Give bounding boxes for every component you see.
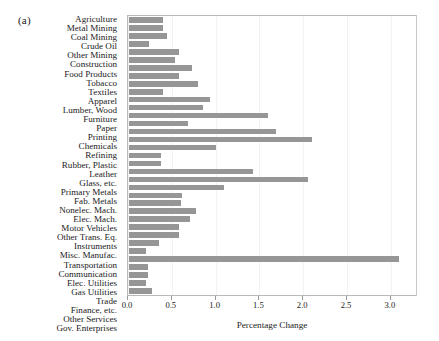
bar <box>129 113 268 119</box>
bar <box>129 81 198 87</box>
x-axis-tick-label: 0.5 <box>165 300 176 310</box>
bar-row <box>128 199 416 207</box>
bar-row <box>128 191 416 199</box>
bar <box>129 121 188 127</box>
bar-row <box>128 32 416 40</box>
x-axis-tick-label: 0.0 <box>122 300 133 310</box>
bar <box>129 65 192 71</box>
bar <box>129 17 163 23</box>
bar-row <box>128 144 416 152</box>
bar-row <box>128 64 416 72</box>
bar-row <box>128 80 416 88</box>
bar-row <box>128 207 416 215</box>
bar <box>129 129 276 135</box>
bar <box>129 256 399 262</box>
x-axis-tick-label: 2.5 <box>341 300 352 310</box>
bar-row <box>128 128 416 136</box>
bar-row <box>128 104 416 112</box>
bar <box>129 169 253 175</box>
bar-row <box>128 287 416 295</box>
category-label: Gov. Enterprises <box>0 324 121 333</box>
bar-row <box>128 255 416 263</box>
bar-row <box>128 159 416 167</box>
bar <box>129 41 149 47</box>
bar <box>129 73 179 79</box>
bar-row <box>128 175 416 183</box>
bar <box>129 232 179 238</box>
x-axis-tick-label: 1.0 <box>209 300 220 310</box>
bar-row <box>128 88 416 96</box>
bar-row <box>128 96 416 104</box>
bar <box>129 224 179 230</box>
bar-row <box>128 239 416 247</box>
bar-row <box>128 112 416 120</box>
bar <box>129 153 161 159</box>
bar <box>129 49 179 55</box>
plot-area <box>127 15 417 296</box>
bar <box>129 145 216 151</box>
bar-row <box>128 136 416 144</box>
bar <box>129 248 146 254</box>
bar-row <box>128 247 416 255</box>
bar-row <box>128 151 416 159</box>
x-axis-tick-label: 1.5 <box>253 300 264 310</box>
bar-row <box>128 24 416 32</box>
bar-row <box>128 279 416 287</box>
bar-row <box>128 223 416 231</box>
figure-container: (a) AgricultureMetal MiningCoal MiningCr… <box>0 0 439 341</box>
bar-row <box>128 48 416 56</box>
bar <box>129 264 148 270</box>
bar-row <box>128 120 416 128</box>
bar <box>129 97 210 103</box>
bar <box>129 185 224 191</box>
bar <box>129 89 163 95</box>
bar-row <box>128 56 416 64</box>
bar <box>129 137 312 143</box>
bar-series <box>128 16 416 295</box>
bar <box>129 25 163 31</box>
bar-row <box>128 263 416 271</box>
bar-row <box>128 183 416 191</box>
bar-row <box>128 215 416 223</box>
bar-row <box>128 271 416 279</box>
x-axis-tick-label: 3.0 <box>384 300 395 310</box>
bar <box>129 105 203 111</box>
bar <box>129 161 161 167</box>
x-axis: 0.00.51.01.52.02.53.0 <box>127 296 417 322</box>
bar-row <box>128 16 416 24</box>
bar <box>129 272 148 278</box>
x-axis-title: Percentage Change <box>127 320 417 330</box>
bar <box>129 208 196 214</box>
bar <box>129 280 146 286</box>
bar <box>129 177 308 183</box>
bar <box>129 193 182 199</box>
bar-row <box>128 167 416 175</box>
bar <box>129 57 175 63</box>
bar-row <box>128 40 416 48</box>
x-axis-tick-label: 2.0 <box>297 300 308 310</box>
bar <box>129 240 159 246</box>
bar <box>129 216 190 222</box>
bar <box>129 200 181 206</box>
bar <box>129 288 152 294</box>
category-label-axis: AgricultureMetal MiningCoal MiningCrude … <box>0 15 121 296</box>
bar <box>129 33 167 39</box>
bar-row <box>128 231 416 239</box>
bar-row <box>128 72 416 80</box>
